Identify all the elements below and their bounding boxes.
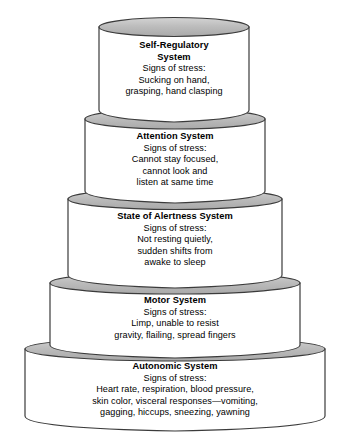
stack-shapes (0, 0, 350, 446)
systems-stack-diagram: Self-Regulatory System Signs of stress: … (0, 0, 350, 446)
tier-shape-self-regulatory (99, 18, 249, 123)
tier-shape-attention (85, 109, 265, 203)
